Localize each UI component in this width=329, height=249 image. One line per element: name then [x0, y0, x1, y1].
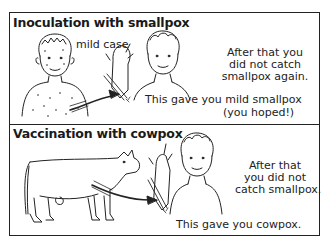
healthy-person-1: [134, 31, 190, 100]
arrow-1: [70, 96, 112, 110]
cow-illustration: [25, 150, 140, 222]
illustrations: [0, 0, 329, 249]
sick-person-illustration: [22, 34, 88, 117]
scratch-instrument-1: [104, 44, 133, 102]
healthy-person-2: [170, 133, 222, 214]
arrow-2: [92, 185, 150, 200]
